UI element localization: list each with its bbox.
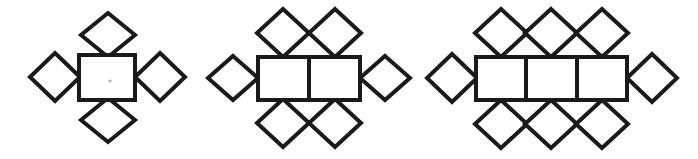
square-strip <box>476 57 627 100</box>
pattern-sequence-canvas <box>0 0 698 159</box>
square-strip <box>258 57 360 100</box>
figures-root <box>30 9 677 148</box>
square-strip <box>79 55 135 100</box>
square-strip-outline <box>476 57 627 100</box>
square-strip-outline <box>79 55 135 100</box>
ink-speck <box>108 79 111 82</box>
